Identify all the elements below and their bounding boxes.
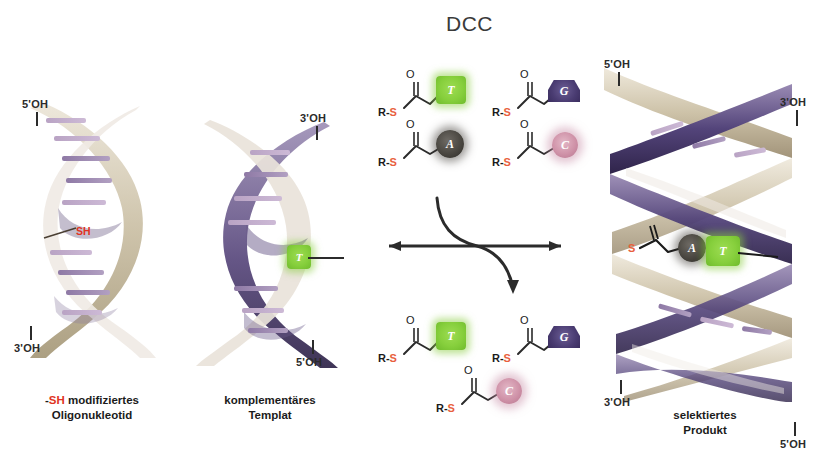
building-block-t-bottom: R-S O T [394, 318, 456, 366]
base-pair-rung [242, 308, 284, 313]
base-pair-rung [66, 290, 110, 295]
carbonyl-oxygen-label: O [520, 314, 529, 326]
base-glyph-g: G [548, 326, 580, 348]
caption-product: selektiertes Produkt [640, 408, 770, 438]
base-pair-rung [54, 136, 100, 141]
caption-template-line2: Templat [248, 409, 291, 421]
base-glyph-t: T [436, 76, 466, 104]
building-block-c-bottom: R-S O C [452, 368, 514, 416]
tick-3prime-product-top [796, 110, 798, 126]
base-pair-rung [46, 118, 86, 123]
label-5prime-oligo: 5'OH [22, 98, 48, 110]
building-block-a-top: R-S O A [394, 122, 456, 170]
caption-template-line1: komplementäres [224, 394, 315, 406]
tick-5prime-template [312, 340, 314, 354]
base-pair-rung [248, 328, 288, 333]
base-pair-rung [58, 270, 104, 275]
tick-3prime-template [316, 126, 318, 140]
base-pair-rung [66, 178, 112, 183]
arrowhead-right [549, 241, 561, 251]
base-pair-rung [250, 150, 290, 155]
arrowhead-curved [507, 280, 519, 294]
template-helix [188, 120, 348, 370]
tick-3prime-oligo [30, 326, 32, 340]
base-glyph-t: T [436, 322, 466, 350]
tick-3prime-product-bottom [620, 380, 622, 394]
rs-label: R-S [492, 106, 511, 118]
tick-5prime-product-top [618, 72, 620, 86]
sulfur-symbol: S [390, 106, 397, 118]
template-pairing-line [308, 250, 350, 266]
rs-label: R-S [378, 106, 397, 118]
rs-label: R-S [436, 402, 455, 414]
reaction-arrows [375, 196, 575, 296]
carbonyl-oxygen-label: O [464, 364, 473, 376]
tick-5prime-product-bottom [794, 422, 796, 436]
product-sulfur-label: S [628, 242, 635, 254]
rs-label: R-S [492, 156, 511, 168]
caption-template: komplementäres Templat [190, 393, 350, 423]
base-pair-rung [244, 172, 288, 177]
base-pair-rung [62, 156, 110, 161]
caption-product-line2: Produkt [683, 424, 726, 436]
base-pair-rung [234, 196, 282, 201]
caption-reactant: -SH modifiziertes Oligonukleotid [12, 393, 172, 423]
building-block-g-top: R-S O G [508, 72, 570, 120]
carbonyl-oxygen-label: O [406, 314, 415, 326]
sulfur-symbol: S [448, 402, 455, 414]
base-glyph-g: G [548, 80, 580, 102]
base-glyph-c: C [496, 378, 522, 404]
base-pair-rung [228, 220, 276, 225]
caption-product-line1: selektiertes [673, 409, 736, 421]
sulfur-symbol: S [504, 106, 511, 118]
carbonyl-oxygen-label: O [520, 118, 529, 130]
caption-reactant-line2: Oligonukleotid [52, 409, 133, 421]
rs-label: R-S [378, 352, 397, 364]
carbonyl-oxygen-label: O [406, 118, 415, 130]
base-glyph-a: A [436, 130, 464, 158]
label-3prime-oligo: 3'OH [14, 342, 40, 354]
curved-exchange-path [437, 198, 513, 288]
sulfur-symbol: S [504, 352, 511, 364]
label-5prime-product-top: 5'OH [604, 58, 630, 70]
carbonyl-oxygen-label: O [406, 68, 415, 80]
figure-title: DCC [446, 12, 493, 36]
label-3prime-product-bottom: 3'OH [604, 396, 630, 408]
building-block-t-top: R-S O T [394, 72, 456, 120]
label-3prime-template: 3'OH [300, 112, 326, 124]
product-pairing-line [738, 246, 784, 260]
building-block-g-bottom: R-S O G [508, 318, 570, 366]
sh-modification-label: SH [76, 225, 91, 237]
base-pair-rung [234, 286, 278, 291]
caption-reactant-line1: -SH modifiziertes [45, 394, 139, 406]
product-base-a: A [678, 234, 706, 262]
rs-label: R-S [378, 156, 397, 168]
building-block-c-top: R-S O C [508, 122, 570, 170]
label-5prime-product-bottom: 5'OH [780, 438, 806, 450]
base-pair-rung [50, 250, 92, 255]
sulfur-symbol: S [504, 156, 511, 168]
base-pair-rung [62, 200, 106, 205]
figure-canvas: DCC [0, 0, 835, 473]
label-3prime-product-top: 3'OH [780, 96, 806, 108]
base-glyph-c: C [552, 132, 578, 158]
arrowhead-left [389, 241, 401, 251]
product-base-t: T [706, 236, 740, 266]
rs-label: R-S [492, 352, 511, 364]
label-5prime-template: 5'OH [296, 356, 322, 368]
tick-5prime-oligo [36, 112, 38, 126]
caption-sh-highlight: SH [49, 394, 65, 406]
carbonyl-oxygen-label: O [520, 68, 529, 80]
base-pair-rung [62, 310, 102, 315]
sulfur-symbol: S [390, 352, 397, 364]
sulfur-symbol: S [390, 156, 397, 168]
